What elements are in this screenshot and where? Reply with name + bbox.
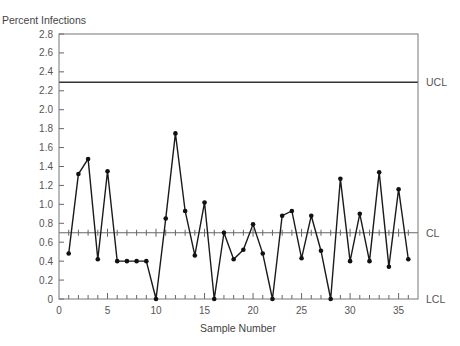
x-tick-label: 25 [296, 305, 308, 316]
plot-frame [59, 34, 418, 299]
cl-label: CL [426, 227, 440, 239]
y-axis-title: Percent Infections [2, 14, 86, 26]
series-line [69, 133, 409, 299]
y-tick-label: 1.0 [39, 199, 53, 210]
data-point [348, 259, 353, 264]
data-point [173, 131, 178, 136]
y-tick-label: 2.6 [39, 47, 53, 58]
data-point [357, 212, 362, 217]
data-point [134, 259, 139, 264]
x-tick-label: 30 [345, 305, 357, 316]
data-point [280, 213, 285, 218]
data-point [299, 256, 304, 261]
y-tick-label: 2.4 [39, 66, 53, 77]
data-point [406, 257, 411, 262]
data-point [193, 253, 198, 258]
y-tick-label: 2.0 [39, 104, 53, 115]
y-tick-label: 0.2 [39, 275, 53, 286]
y-tick-label: 0.8 [39, 218, 53, 229]
data-point [270, 297, 275, 302]
y-tick-label: 0.4 [39, 256, 53, 267]
data-point [125, 259, 130, 264]
data-point [66, 251, 71, 256]
lcl-label: LCL [426, 293, 445, 305]
data-point [260, 251, 265, 256]
data-point [183, 209, 188, 214]
data-point [251, 222, 256, 227]
data-point [144, 259, 149, 264]
data-point [328, 297, 333, 302]
x-axis: 05101520253035 [56, 293, 408, 316]
data-point [367, 259, 372, 264]
y-tick-label: 2.8 [39, 29, 53, 40]
data-point [202, 200, 207, 205]
data-point [163, 216, 168, 221]
data-point [76, 172, 81, 177]
x-tick-label: 5 [105, 305, 111, 316]
data-point [212, 297, 217, 302]
x-tick-label: 35 [393, 305, 405, 316]
y-tick-label: 2.2 [39, 85, 53, 96]
data-point [377, 170, 382, 175]
data-point [387, 265, 392, 270]
data-point [115, 259, 120, 264]
data-point [154, 297, 159, 302]
y-tick-label: 1.2 [39, 180, 53, 191]
y-tick-label: 0.6 [39, 237, 53, 248]
control-chart: Percent Infections 00.20.40.60.81.01.21.… [0, 0, 460, 346]
y-tick-label: 1.6 [39, 142, 53, 153]
control-limits: UCLCLLCL [59, 76, 447, 305]
data-point [290, 209, 295, 214]
data-point [319, 248, 324, 253]
y-axis: 00.20.40.60.81.01.21.41.61.82.02.22.42.6… [39, 29, 64, 305]
data-point [96, 257, 101, 262]
y-tick-label: 0 [47, 294, 53, 305]
x-tick-label: 0 [56, 305, 62, 316]
ucl-label: UCL [426, 76, 447, 88]
x-tick-label: 20 [247, 305, 259, 316]
data-point [309, 213, 314, 218]
y-tick-label: 1.8 [39, 123, 53, 134]
x-tick-label: 15 [199, 305, 211, 316]
data-point [105, 169, 110, 174]
data-point [231, 257, 236, 262]
data-point [222, 230, 227, 235]
data-point [396, 187, 401, 192]
y-tick-label: 1.4 [39, 161, 53, 172]
data-point [241, 247, 246, 252]
data-point [338, 177, 343, 182]
data-point [86, 157, 91, 162]
x-axis-title: Sample Number [200, 322, 276, 334]
x-tick-label: 10 [150, 305, 162, 316]
